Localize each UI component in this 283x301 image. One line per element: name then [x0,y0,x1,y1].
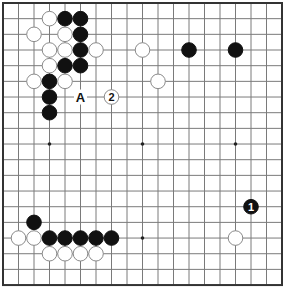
move-number: 1 [248,201,254,213]
stone-black [42,90,57,105]
stone-black [42,105,57,120]
hoshi-point [234,142,238,146]
go-board[interactable]: A 21 [0,0,283,301]
stone-black [182,43,197,58]
stone-white [151,74,166,89]
stone-black [73,58,88,73]
stone-white [42,246,57,261]
intersection-label: A [74,90,87,105]
stone-black [73,11,88,26]
stone-white [42,58,57,73]
stone-white [11,231,26,246]
stone-black [58,58,73,73]
stone-white [135,43,150,58]
stones: 21 [11,11,258,261]
stone-black [73,27,88,42]
stone-black [104,231,119,246]
stone-white [42,43,57,58]
board-labels: A [74,90,87,105]
hoshi-point [48,142,52,146]
label-text: A [76,90,86,105]
stone-white [58,43,73,58]
stone-black-move-1: 1 [244,199,259,214]
stone-black [228,43,243,58]
stone-white [27,27,42,42]
stone-white [58,246,73,261]
stone-black [27,215,42,230]
stone-black [73,231,88,246]
stone-black [42,231,57,246]
stone-black [73,43,88,58]
stone-white [228,231,243,246]
stone-black [58,231,73,246]
stone-white [89,43,104,58]
hoshi-point [141,236,145,240]
stone-white [58,74,73,89]
move-number: 2 [108,91,114,103]
stone-white-move-2: 2 [104,90,119,105]
stone-black [42,74,57,89]
stone-white [27,231,42,246]
stone-white [27,74,42,89]
stone-white [58,27,73,42]
stone-black [58,11,73,26]
stone-white [73,246,88,261]
hoshi-point [141,142,145,146]
stone-white [42,11,57,26]
stone-white [89,246,104,261]
stone-black [89,231,104,246]
